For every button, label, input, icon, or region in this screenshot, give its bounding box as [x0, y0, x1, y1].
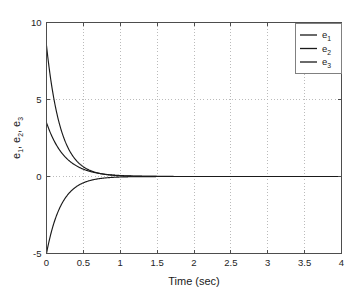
chart-plot: 00.511.522.533.54 -50510 Time (sec) e1, …: [0, 0, 359, 299]
y-tick-label: 10: [31, 17, 42, 28]
y-axis-title-rotated: e1, e2, e3: [10, 117, 24, 159]
y-tick-labels: -50510: [31, 17, 42, 259]
x-tick-label: 3: [265, 257, 270, 268]
x-tick-labels: 00.511.522.533.54: [44, 257, 344, 268]
y-tick-label: -5: [33, 248, 41, 259]
y-axis-title-text: e1, e2, e3: [10, 117, 24, 159]
x-tick-label: 1: [118, 257, 123, 268]
y-tick-label: 0: [36, 171, 41, 182]
y-axis-title: e1, e2, e3: [10, 117, 24, 159]
legend: e1e2e3: [295, 23, 341, 73]
x-axis-title-text: Time (sec): [168, 275, 220, 287]
y-tick-label: 5: [36, 94, 41, 105]
x-tick-label: 2: [191, 257, 196, 268]
figure-canvas: 00.511.522.533.54 -50510 Time (sec) e1, …: [0, 0, 359, 299]
data-curves: [47, 46, 342, 254]
curve-e_2: [47, 123, 342, 177]
x-axis-title: Time (sec): [168, 275, 220, 287]
x-tick-label: 0.5: [77, 257, 90, 268]
x-tick-label: 3.5: [298, 257, 311, 268]
x-tick-label: 1.5: [151, 257, 164, 268]
x-tick-label: 4: [339, 257, 344, 268]
x-tick-label: 0: [44, 257, 49, 268]
x-tick-label: 2.5: [224, 257, 237, 268]
